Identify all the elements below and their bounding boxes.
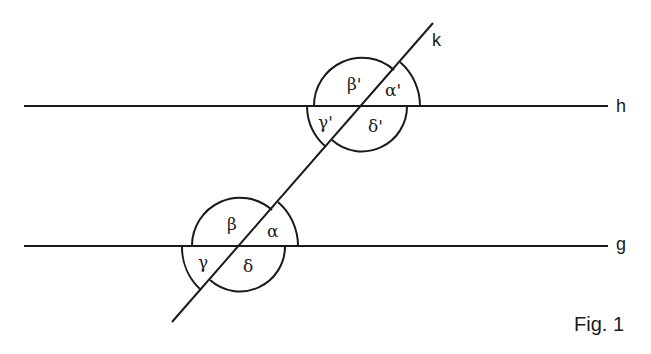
figure-caption: Fig. 1 bbox=[574, 313, 624, 335]
line-k bbox=[172, 23, 433, 322]
parallel-lines-diagram: α' β' γ' δ' α β γ δ k h g Fig. 1 bbox=[0, 0, 651, 354]
line-label-k: k bbox=[432, 30, 442, 50]
angle-label-beta: β bbox=[227, 214, 237, 234]
angle-label-beta-prime: β' bbox=[347, 74, 362, 94]
angle-arc-alpha bbox=[278, 202, 298, 246]
angle-label-gamma-prime: γ' bbox=[318, 112, 333, 132]
angle-arc-alpha-prime bbox=[400, 62, 420, 106]
line-label-g: g bbox=[616, 234, 626, 254]
angle-label-alpha: α bbox=[267, 221, 279, 241]
angle-label-delta-prime: δ' bbox=[368, 116, 383, 136]
angle-label-alpha-prime: α' bbox=[385, 80, 401, 100]
line-label-h: h bbox=[616, 96, 626, 116]
angle-label-delta: δ bbox=[243, 256, 253, 276]
angle-label-gamma: γ bbox=[198, 252, 208, 272]
